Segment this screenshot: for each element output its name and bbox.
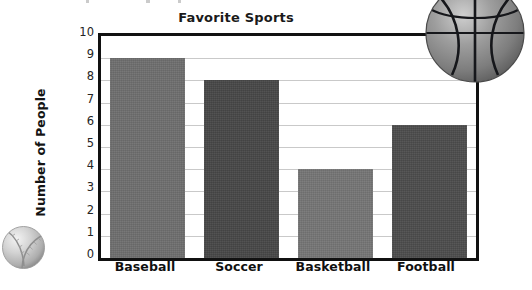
x-tick-label-soccer: Soccer — [192, 259, 286, 274]
bar-texture — [204, 80, 279, 258]
bar-basketball — [298, 169, 373, 258]
x-tick-label-football: Football — [379, 259, 473, 274]
y-tick-label: 0 — [72, 249, 94, 260]
y-axis-title: Number of People — [33, 68, 48, 238]
y-tick-label: 8 — [72, 71, 94, 82]
bar-baseball — [110, 58, 185, 258]
y-axis-ticks: 109876543210 — [70, 33, 94, 255]
crop-artifact — [178, 0, 181, 3]
y-tick-label: 5 — [72, 138, 94, 149]
y-tick-label: 3 — [72, 182, 94, 193]
y-tick-label: 1 — [72, 227, 94, 238]
y-tick-label: 10 — [72, 27, 94, 38]
bar-texture — [298, 169, 373, 258]
bar-texture — [392, 125, 467, 258]
crop-artifact — [146, 0, 150, 3]
chart-screenshot: Favorite Sports Number of People 1098765… — [0, 0, 532, 290]
baseball-icon — [0, 224, 47, 271]
x-tick-label-baseball: Baseball — [98, 259, 192, 274]
bar-soccer — [204, 80, 279, 258]
basketball-icon — [418, 0, 532, 90]
x-axis-ticks: BaseballSoccerBasketballFootball — [98, 259, 473, 283]
bar-football — [392, 125, 467, 258]
y-tick-label: 7 — [72, 94, 94, 105]
y-tick-label: 6 — [72, 116, 94, 127]
x-tick-label-basketball: Basketball — [286, 259, 380, 274]
y-tick-label: 9 — [72, 49, 94, 60]
crop-artifact — [86, 0, 89, 3]
bar-texture — [110, 58, 185, 258]
y-tick-label: 4 — [72, 160, 94, 171]
chart-title: Favorite Sports — [0, 10, 472, 25]
y-tick-label: 2 — [72, 205, 94, 216]
